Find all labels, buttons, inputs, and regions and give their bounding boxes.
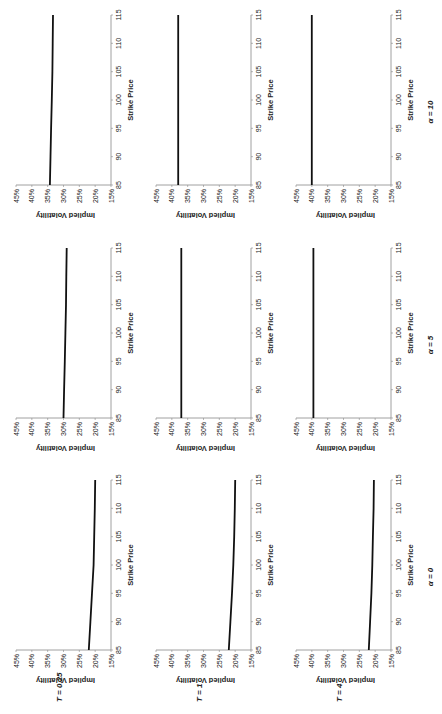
- iv-axis-title: Implied Volatility: [315, 444, 375, 453]
- strike-tick-label: 90: [395, 618, 402, 626]
- iv-tick-label: 20%: [92, 654, 99, 668]
- iv-tick-label: 15%: [108, 654, 115, 668]
- iv-tick-label: 45%: [13, 189, 20, 203]
- iv-tick-label: 30%: [200, 422, 207, 436]
- iv-tick-label: 35%: [324, 654, 331, 668]
- alpha-label: α = 10: [426, 100, 435, 124]
- strike-tick-label: 100: [115, 94, 122, 106]
- strike-tick-label: 90: [255, 386, 262, 394]
- strike-tick-label: 110: [395, 503, 402, 514]
- strike-tick-label: 95: [395, 124, 402, 132]
- strike-tick-label: 95: [115, 124, 122, 132]
- strike-tick-label: 85: [255, 181, 262, 189]
- strike-axis-title: Strike Price: [126, 312, 135, 353]
- strike-tick-label: 110: [115, 503, 122, 514]
- strike-tick-label: 115: [395, 9, 402, 20]
- strike-tick-label: 100: [395, 327, 402, 339]
- strike-tick-label: 95: [115, 589, 122, 597]
- iv-axis-title: Implied Volatility: [315, 211, 375, 220]
- iv-tick-label: 45%: [13, 422, 20, 436]
- iv-tick-label: 45%: [153, 189, 160, 203]
- maturity-label: T = 0.25: [55, 672, 64, 702]
- iv-tick-label: 30%: [60, 189, 67, 203]
- iv-tick-label: 20%: [232, 189, 239, 203]
- iv-tick-label: 35%: [184, 422, 191, 436]
- iv-axis-title: Implied Volatility: [35, 676, 95, 685]
- iv-tick-label: 30%: [340, 654, 347, 668]
- strike-tick-label: 110: [255, 38, 262, 49]
- iv-tick-label: 40%: [28, 654, 35, 668]
- iv-axis-title: Implied Volatility: [175, 676, 235, 685]
- strike-tick-label: 105: [255, 299, 262, 311]
- iv-tick-label: 40%: [308, 189, 315, 203]
- iv-tick-label: 40%: [168, 189, 175, 203]
- strike-tick-label: 110: [115, 271, 122, 282]
- iv-tick-label: 25%: [356, 189, 363, 203]
- strike-tick-label: 105: [115, 66, 122, 78]
- iv-tick-label: 15%: [248, 422, 255, 436]
- strike-tick-label: 95: [395, 589, 402, 597]
- strike-axis-title: Strike Price: [266, 544, 275, 585]
- iv-tick-label: 30%: [340, 189, 347, 203]
- strike-tick-label: 105: [255, 531, 262, 543]
- strike-tick-label: 90: [115, 618, 122, 626]
- iv-tick-label: 20%: [92, 422, 99, 436]
- iv-tick-label: 25%: [356, 654, 363, 668]
- strike-tick-label: 85: [395, 181, 402, 189]
- iv-curve: [369, 480, 374, 650]
- strike-axis-title: Strike Price: [406, 544, 415, 585]
- strike-tick-label: 95: [255, 589, 262, 597]
- strike-tick-label: 100: [395, 94, 402, 106]
- iv-tick-label: 35%: [44, 422, 51, 436]
- panel-T025-alpha1: 15%20%25%30%35%40%45%859095100105110115I…: [13, 242, 136, 453]
- strike-tick-label: 115: [255, 242, 262, 253]
- strike-tick-label: 85: [115, 181, 122, 189]
- iv-tick-label: 15%: [108, 189, 115, 203]
- iv-tick-label: 35%: [184, 189, 191, 203]
- strike-tick-label: 115: [115, 242, 122, 253]
- iv-curve: [50, 15, 53, 185]
- strike-tick-label: 95: [395, 357, 402, 365]
- strike-tick-label: 105: [395, 531, 402, 543]
- strike-tick-label: 115: [115, 474, 122, 485]
- iv-axis-title: Implied Volatility: [175, 444, 235, 453]
- strike-tick-label: 105: [395, 299, 402, 311]
- iv-tick-label: 40%: [168, 654, 175, 668]
- iv-tick-label: 25%: [216, 189, 223, 203]
- iv-tick-label: 40%: [308, 654, 315, 668]
- iv-tick-label: 25%: [216, 422, 223, 436]
- strike-tick-label: 100: [255, 94, 262, 106]
- strike-axis-title: Strike Price: [266, 312, 275, 353]
- panel-T4-alpha2: 15%20%25%30%35%40%45%859095100105110115I…: [293, 9, 416, 220]
- strike-tick-label: 115: [395, 474, 402, 485]
- panel-T4-alpha1: 15%20%25%30%35%40%45%859095100105110115I…: [293, 242, 416, 453]
- panel-T1-alpha0: 15%20%25%30%35%40%45%859095100105110115I…: [153, 474, 276, 685]
- implied-volatility-figure: 15%20%25%30%35%40%45%859095100105110115I…: [0, 0, 442, 714]
- strike-tick-label: 95: [255, 124, 262, 132]
- strike-tick-label: 105: [395, 66, 402, 78]
- panel-T4-alpha0: 15%20%25%30%35%40%45%859095100105110115I…: [293, 474, 416, 685]
- iv-curve: [229, 480, 235, 650]
- iv-axis-title: Implied Volatility: [35, 444, 95, 453]
- strike-tick-label: 95: [115, 357, 122, 365]
- alpha-label: α = 5: [426, 335, 435, 354]
- iv-tick-label: 30%: [200, 654, 207, 668]
- strike-tick-label: 85: [115, 414, 122, 422]
- strike-tick-label: 90: [115, 386, 122, 394]
- iv-curve: [89, 480, 95, 650]
- strike-tick-label: 115: [395, 242, 402, 253]
- iv-tick-label: 40%: [168, 422, 175, 436]
- strike-tick-label: 85: [115, 646, 122, 654]
- strike-tick-label: 105: [255, 66, 262, 78]
- iv-tick-label: 45%: [153, 654, 160, 668]
- strike-tick-label: 110: [395, 38, 402, 49]
- iv-tick-label: 20%: [372, 654, 379, 668]
- strike-tick-label: 90: [115, 153, 122, 161]
- iv-tick-label: 20%: [232, 422, 239, 436]
- strike-tick-label: 85: [395, 646, 402, 654]
- strike-tick-label: 110: [255, 503, 262, 514]
- strike-tick-label: 100: [255, 327, 262, 339]
- strike-tick-label: 85: [395, 414, 402, 422]
- strike-tick-label: 90: [255, 618, 262, 626]
- strike-axis-title: Strike Price: [126, 544, 135, 585]
